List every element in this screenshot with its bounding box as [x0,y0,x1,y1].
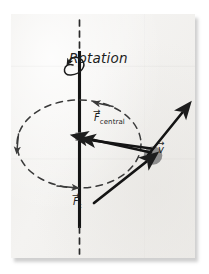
scanned-paper-sheet: Rotation →Fcentral →Ft →v [11,14,195,258]
figure-scene: Rotation →Fcentral →Ft →v [0,0,209,274]
orbit-direction-arrow-bottom [57,186,73,188]
velocity-label: →v [158,145,164,155]
f-central-subscript: central [100,118,125,126]
f-tangential-subscript: t [79,202,82,210]
velocity-vector [148,113,182,155]
axis-hub-marker [76,133,85,142]
f-tangential-vector [94,162,146,203]
f-central-label: →Fcentral [94,113,125,126]
velocity-vector-accent: → [157,139,165,148]
f-tangential-label: →Ft [73,197,82,210]
orbit-direction-arrow-left [17,134,18,148]
rotation-label: Rotation [69,52,128,66]
f-tangential-vector-accent: → [72,191,80,200]
f-central-vector-accent: → [93,107,101,116]
